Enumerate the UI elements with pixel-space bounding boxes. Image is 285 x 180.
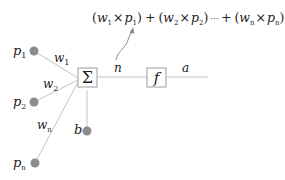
weighted-sum-formula: (w1×p1)+(w2×p2)···+(wn×pn)+b [92,10,285,27]
net-input-label: n [114,61,122,75]
input-label-p1: p1 [13,43,26,60]
annotation-arrow [116,31,132,60]
output-label: a [182,61,189,75]
weight-label-w2: w2 [43,77,58,93]
input-node-p1 [30,47,39,56]
weight-label-wn: wn [37,118,52,134]
input-node-p2 [30,98,39,107]
input-label-pn: pn [13,155,26,172]
bias-label: b [74,122,82,137]
bias-node [83,127,92,136]
neuron-diagram: Σ f p1 p2 pn w1 w2 wn b n a (w1×p1)+(w2×… [0,0,285,180]
arrowhead-icon [130,27,135,34]
summation-symbol: Σ [82,68,93,87]
weight-label-w1: w1 [54,51,69,67]
input-label-p2: p2 [13,94,26,111]
input-node-pn [31,159,40,168]
